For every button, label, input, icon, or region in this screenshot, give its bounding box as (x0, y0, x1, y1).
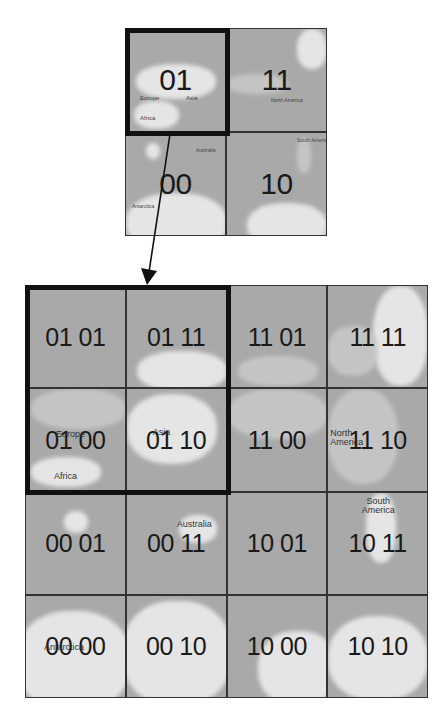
zoom-arrow-icon (0, 0, 447, 727)
